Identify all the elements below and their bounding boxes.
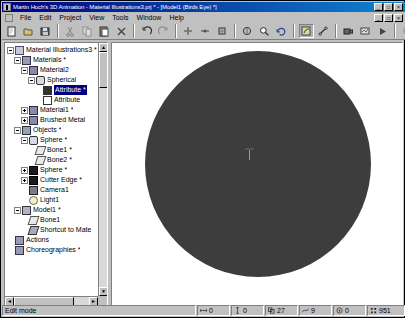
tree-node[interactable]: Cutter Edge * bbox=[6, 175, 98, 185]
sphere-object[interactable] bbox=[145, 51, 371, 277]
paste-button[interactable] bbox=[97, 24, 112, 38]
tree-node[interactable]: Bone1 * bbox=[6, 145, 98, 155]
mdi-minimize-button[interactable]: _ bbox=[374, 14, 383, 22]
menu-item-window[interactable]: Window bbox=[133, 12, 166, 23]
title-bar: Martin Hoch's 3D Animation - Material Il… bbox=[2, 2, 405, 12]
copy-button[interactable] bbox=[80, 24, 95, 38]
tree-node[interactable]: Material1 * bbox=[6, 105, 98, 115]
tree-node-label: Choreographies * bbox=[26, 245, 80, 255]
render-button[interactable] bbox=[341, 24, 356, 38]
model-birds-eye-viewport[interactable] bbox=[111, 42, 403, 306]
open-button[interactable] bbox=[21, 24, 36, 38]
new-button[interactable] bbox=[4, 24, 19, 38]
muscle-mode-button[interactable] bbox=[299, 24, 314, 38]
scroll-down-button[interactable]: ▼ bbox=[99, 287, 108, 296]
reset-view-button[interactable] bbox=[274, 24, 289, 38]
shade-wireframe-button[interactable] bbox=[400, 24, 405, 38]
menu-item-view[interactable]: View bbox=[85, 12, 108, 23]
light-icon bbox=[29, 196, 38, 205]
cut-button[interactable] bbox=[63, 24, 78, 38]
render-options-button[interactable] bbox=[358, 24, 373, 38]
tree-node[interactable]: Material Illustrations3 * bbox=[6, 45, 98, 55]
manipulator-handle-stem[interactable] bbox=[249, 150, 250, 160]
toolbar-separator bbox=[335, 24, 337, 38]
memory-icon bbox=[370, 307, 377, 314]
tree-expand-icon[interactable] bbox=[20, 106, 29, 115]
mdi-restore-button[interactable]: □ bbox=[384, 14, 393, 22]
tree-node[interactable]: Bone2 * bbox=[6, 155, 98, 165]
zoom-view-button[interactable] bbox=[257, 24, 272, 38]
redo-button[interactable] bbox=[156, 24, 171, 38]
scroll-up-button[interactable]: ▲ bbox=[99, 43, 108, 52]
tree-node[interactable]: Sphere * bbox=[6, 165, 98, 175]
bone-mode-button[interactable] bbox=[316, 24, 331, 38]
undo-button[interactable] bbox=[139, 24, 154, 38]
vertical-scroll-thumb[interactable] bbox=[99, 52, 108, 88]
tree-node[interactable]: Choreographies * bbox=[6, 245, 98, 255]
tree-collapse-icon[interactable] bbox=[13, 126, 22, 135]
tree-node[interactable]: Sphere * bbox=[6, 135, 98, 145]
tree-node[interactable]: Model1 * bbox=[6, 205, 98, 215]
tree-node[interactable]: Materials * bbox=[6, 55, 98, 65]
status-value: 0 bbox=[209, 306, 213, 315]
tree-expand-icon[interactable] bbox=[20, 116, 29, 125]
minimize-button[interactable]: _ bbox=[374, 3, 383, 11]
tree-collapse-icon[interactable] bbox=[13, 206, 22, 215]
status-bar: Edit mode 0 0 27 9 0 951 bbox=[2, 305, 405, 316]
restore-button[interactable]: □ bbox=[384, 3, 393, 11]
bone-icon bbox=[28, 216, 40, 225]
tree-node[interactable]: Camera1 bbox=[6, 185, 98, 195]
app-icon bbox=[3, 3, 11, 11]
toolbar-separator bbox=[293, 24, 295, 38]
tree-node[interactable]: Light1 bbox=[6, 195, 98, 205]
mdi-close-button[interactable]: × bbox=[394, 14, 403, 22]
toolbar-group-keys bbox=[179, 24, 232, 38]
tree-expand-icon[interactable] bbox=[20, 176, 29, 185]
menu-item-file[interactable]: File bbox=[16, 12, 35, 23]
close-button[interactable]: × bbox=[394, 3, 403, 11]
tree-collapse-icon[interactable] bbox=[13, 56, 22, 65]
mdi-document-icon[interactable] bbox=[5, 14, 13, 22]
tree-node-label: Bone2 * bbox=[47, 155, 72, 165]
snap-button[interactable] bbox=[215, 24, 230, 38]
tree-node-label: Attribute * bbox=[54, 85, 87, 95]
menu-item-project[interactable]: Project bbox=[55, 12, 85, 23]
tree-expand-icon[interactable] bbox=[20, 166, 29, 175]
tree-horizontal-scrollbar[interactable]: ◄ ► bbox=[5, 296, 98, 305]
add-key-button[interactable] bbox=[181, 24, 196, 38]
tree-collapse-icon[interactable] bbox=[27, 76, 36, 85]
menu-item-tools[interactable]: Tools bbox=[108, 12, 132, 23]
materials-folder-icon bbox=[22, 56, 31, 65]
menu-item-edit[interactable]: Edit bbox=[35, 12, 55, 23]
tree-collapse-icon[interactable] bbox=[20, 136, 29, 145]
toolbar-group-history bbox=[137, 24, 173, 38]
delete-button[interactable] bbox=[114, 24, 129, 38]
tree-vertical-scrollbar[interactable]: ▲ ▼ bbox=[98, 43, 107, 296]
project-tree-panel[interactable]: Material Illustrations3 *Materials *Mate… bbox=[4, 42, 108, 306]
solid-block-icon bbox=[29, 176, 38, 185]
tree-node[interactable]: Actions bbox=[6, 235, 98, 245]
application-window: Martin Hoch's 3D Animation - Material Il… bbox=[0, 0, 405, 318]
tree-node[interactable]: Objects * bbox=[6, 125, 98, 135]
menu-item-help[interactable]: Help bbox=[165, 12, 187, 23]
tree-node[interactable]: Shortcut to Mate bbox=[6, 225, 98, 235]
tree-node[interactable]: Brushed Metal bbox=[6, 115, 98, 125]
tree-collapse-icon[interactable] bbox=[20, 66, 29, 75]
tree-node[interactable]: Attribute * bbox=[6, 85, 98, 95]
remove-key-button[interactable] bbox=[198, 24, 213, 38]
tree-scroll-area[interactable]: Material Illustrations3 *Materials *Mate… bbox=[5, 43, 98, 296]
tree-leaf-spacer bbox=[34, 86, 43, 95]
project-tree[interactable]: Material Illustrations3 *Materials *Mate… bbox=[5, 43, 98, 255]
toolbar-separator bbox=[394, 24, 396, 38]
status-value: 27 bbox=[277, 306, 285, 315]
tree-node[interactable]: Bone1 bbox=[6, 215, 98, 225]
tree-collapse-icon[interactable] bbox=[6, 46, 15, 55]
status-field-memory: 951 bbox=[367, 305, 405, 316]
tree-node[interactable]: Spherical bbox=[6, 75, 98, 85]
tree-node[interactable]: Material2 bbox=[6, 65, 98, 75]
mdi-window-controls: _ □ × bbox=[374, 14, 403, 22]
tree-node[interactable]: Attribute bbox=[6, 95, 98, 105]
play-button[interactable] bbox=[375, 24, 390, 38]
rotate-view-button[interactable] bbox=[240, 24, 255, 38]
save-button[interactable] bbox=[38, 24, 53, 38]
